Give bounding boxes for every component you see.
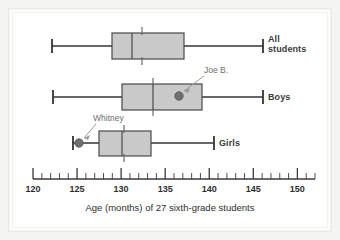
annotation-label-whitney: Whitney: [93, 113, 124, 123]
whitney-data-point: [75, 139, 83, 147]
axis-tick-label: 120: [18, 184, 48, 194]
series-label-girls: Girls: [219, 138, 240, 148]
joe-b-data-point: [175, 92, 183, 100]
boys-boxplot: [53, 76, 263, 116]
axis-ticks: [33, 168, 315, 179]
axis-tick-label: 130: [106, 184, 136, 194]
axis-tick-label: 145: [238, 184, 268, 194]
all-students-boxplot: [52, 27, 263, 65]
girls-box: [99, 131, 151, 156]
annotation-label-joe-b: Joe B.: [204, 65, 228, 75]
axis-tick-label: 125: [62, 184, 92, 194]
whitney-leader-line: [84, 124, 96, 138]
series-label-all-students: All students: [268, 34, 306, 54]
axis-tick-label: 140: [194, 184, 224, 194]
boxplot-figure: All students Boys Girls Joe B. Whitney 1…: [0, 0, 340, 240]
axis-tick-label: 135: [150, 184, 180, 194]
boys-box: [122, 84, 202, 110]
axis-tick-label: 150: [282, 184, 312, 194]
girls-boxplot: [73, 124, 214, 162]
figure-caption: Age (months) of 27 sixth-grade students: [0, 202, 340, 213]
axis-ruler: [33, 168, 315, 179]
series-label-boys: Boys: [268, 92, 290, 102]
all-students-box: [112, 33, 184, 59]
